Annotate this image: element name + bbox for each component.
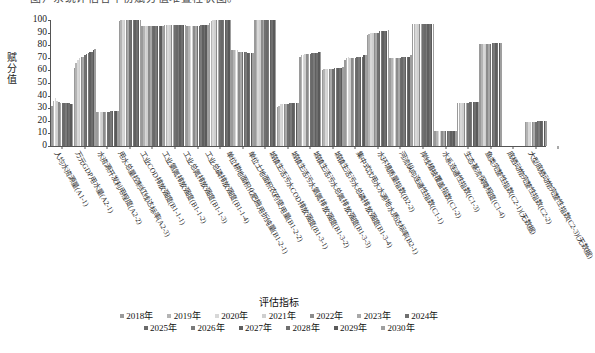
x-tick-mark xyxy=(242,146,243,149)
bar-group xyxy=(502,20,525,146)
legend-swatch xyxy=(191,326,195,330)
cut-off-caption-text: 图）系统评估各年份赋分值堆叠柱状图。 xyxy=(0,0,558,4)
legend-swatch xyxy=(357,314,361,318)
legend-item[interactable]: 2022年 xyxy=(310,311,344,321)
x-tick-mark xyxy=(355,146,356,149)
x-tick-mark xyxy=(265,146,266,149)
y-tick-mark xyxy=(48,146,51,147)
legend-label: 2020年 xyxy=(221,311,248,321)
legend-swatch xyxy=(334,326,338,330)
bar-group xyxy=(322,20,345,146)
y-tick-mark xyxy=(48,96,51,97)
x-tick-mark xyxy=(84,146,85,149)
bar-group xyxy=(141,20,164,146)
bar-group xyxy=(434,20,457,146)
y-tick-mark xyxy=(48,45,51,46)
x-tick-mark xyxy=(220,146,221,149)
bar-group xyxy=(164,20,187,146)
legend-swatch xyxy=(262,314,266,318)
x-axis-category-labels: 人均水资源量(A1-1)万元GDP用水量(A2-1)水资源开发利用程度(A2-2… xyxy=(50,150,546,290)
y-tick-mark xyxy=(48,133,51,134)
legend-swatch xyxy=(405,314,409,318)
x-tick-mark xyxy=(107,146,108,149)
legend-item[interactable]: 2025年 xyxy=(144,323,178,333)
bar-group xyxy=(524,20,547,146)
legend-item[interactable]: 2019年 xyxy=(167,311,201,321)
x-tick-mark xyxy=(400,146,401,149)
legend-item[interactable]: 2028年 xyxy=(286,323,320,333)
legend-swatch xyxy=(215,314,219,318)
x-tick-mark xyxy=(310,146,311,149)
legend-swatch xyxy=(144,326,148,330)
legend-label: 2027年 xyxy=(245,323,272,333)
x-tick-mark xyxy=(152,146,153,149)
legend-item[interactable]: 2027年 xyxy=(239,323,273,333)
legend-label: 2023年 xyxy=(364,311,391,321)
legend-item[interactable]: 2021年 xyxy=(262,311,296,321)
bar-group xyxy=(231,20,254,146)
legend-row: 2025年2026年2027年2028年2029年2030年 xyxy=(137,323,422,333)
bar-group xyxy=(367,20,390,146)
legend-swatch xyxy=(381,326,385,330)
legend-item[interactable]: 2023年 xyxy=(357,311,391,321)
x-tick-mark xyxy=(468,146,469,149)
bar-group xyxy=(209,20,232,146)
legend-label: 2021年 xyxy=(269,311,296,321)
legend-item[interactable]: 2024年 xyxy=(405,311,439,321)
x-tick-mark xyxy=(535,146,536,149)
bar-group xyxy=(74,20,97,146)
legend-swatch xyxy=(239,326,243,330)
y-tick-mark xyxy=(48,33,51,34)
legend-item[interactable]: 2026年 xyxy=(191,323,225,333)
legend-label: 2018年 xyxy=(126,311,153,321)
x-axis-title: 评估指标 xyxy=(0,294,558,309)
legend-label: 2019年 xyxy=(174,311,201,321)
legend-item[interactable]: 2030年 xyxy=(381,323,415,333)
legend-item[interactable]: 2020年 xyxy=(215,311,249,321)
x-tick-mark xyxy=(197,146,198,149)
legend-swatch xyxy=(120,314,124,318)
bar-group xyxy=(51,20,74,146)
y-tick-mark xyxy=(48,108,51,109)
legend-swatch xyxy=(310,314,314,318)
legend-label: 2024年 xyxy=(411,311,438,321)
y-tick-mark xyxy=(48,58,51,59)
legend-swatch xyxy=(167,314,171,318)
x-tick-mark xyxy=(62,146,63,149)
legend-label: 2028年 xyxy=(293,323,320,333)
bar-group xyxy=(254,20,277,146)
y-tick-mark xyxy=(48,70,51,71)
bar-group xyxy=(96,20,119,146)
x-tick-mark xyxy=(377,146,378,149)
x-tick-mark xyxy=(423,146,424,149)
legend-label: 2026年 xyxy=(198,323,225,333)
bar-group xyxy=(547,20,570,146)
x-tick-mark xyxy=(445,146,446,149)
y-tick-mark xyxy=(48,121,51,122)
legend-item[interactable]: 2018年 xyxy=(120,311,154,321)
cut-off-caption: 图）系统评估各年份赋分值堆叠柱状图。 xyxy=(0,0,558,11)
bar-group xyxy=(479,20,502,146)
bar-group xyxy=(344,20,367,146)
legend-label: 2025年 xyxy=(150,323,177,333)
y-tick-mark xyxy=(48,20,51,21)
legend-item[interactable]: 2029年 xyxy=(334,323,368,333)
x-tick-mark xyxy=(558,146,559,149)
x-tick-mark xyxy=(129,146,130,149)
legend-label: 2030年 xyxy=(388,323,415,333)
x-tick-mark xyxy=(175,146,176,149)
bar-groups xyxy=(51,20,546,146)
bar-group xyxy=(186,20,209,146)
legend-label: 2022年 xyxy=(316,311,343,321)
bar-group xyxy=(389,20,412,146)
legend-row: 2018年2019年2020年2021年2022年2023年2024年 xyxy=(113,311,446,321)
bar-group xyxy=(276,20,299,146)
x-tick-mark xyxy=(287,146,288,149)
plot-area: 0102030405060708090100 xyxy=(50,20,546,147)
x-tick-mark xyxy=(332,146,333,149)
bar-group xyxy=(119,20,142,146)
bar-group xyxy=(299,20,322,146)
legend-label: 2029年 xyxy=(340,323,367,333)
bar-group xyxy=(457,20,480,146)
